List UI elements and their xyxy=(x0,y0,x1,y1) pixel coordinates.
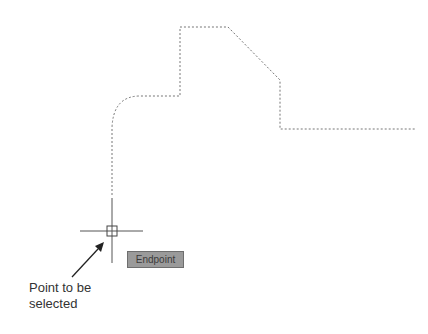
annotation-label: Point to be selected xyxy=(29,280,91,312)
annotation-line-1: Point to be xyxy=(29,280,91,296)
dotted-polyline[interactable] xyxy=(112,27,416,195)
pointer-arrow-icon xyxy=(72,242,104,277)
endpoint-snap-tooltip: Endpoint xyxy=(127,251,184,268)
annotation-line-2: selected xyxy=(29,296,91,312)
